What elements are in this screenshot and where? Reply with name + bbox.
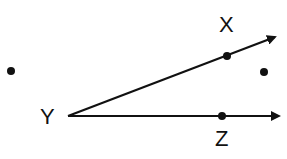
angle-diagram: X Y Z	[0, 0, 287, 159]
label-x: X	[219, 12, 234, 37]
left-point	[7, 67, 15, 75]
ray-yx	[68, 37, 275, 116]
point-x	[223, 52, 231, 60]
label-y: Y	[40, 104, 55, 129]
right-point	[260, 68, 268, 76]
point-z	[218, 112, 226, 120]
label-z: Z	[215, 126, 228, 151]
